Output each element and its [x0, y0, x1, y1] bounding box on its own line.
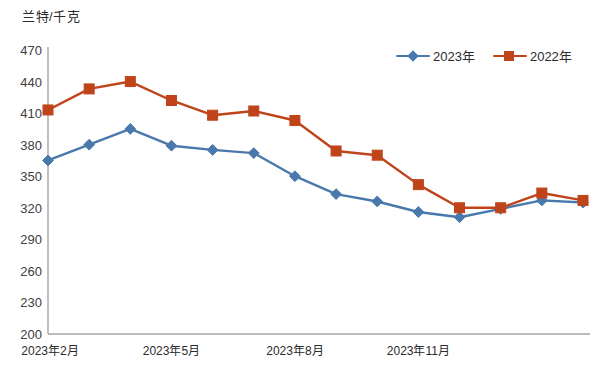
data-point-marker — [166, 95, 176, 105]
data-point-marker — [413, 207, 424, 218]
legend-label: 2022年 — [530, 46, 572, 65]
data-point-marker — [249, 106, 259, 116]
data-point-marker — [208, 110, 218, 120]
line-chart: 兰特/千克 470440410380350320290260230200 202… — [0, 0, 592, 372]
data-point-marker — [537, 188, 547, 198]
data-point-marker — [372, 150, 382, 160]
data-point-marker — [207, 145, 218, 156]
series-line — [48, 82, 583, 208]
data-point-marker — [455, 203, 465, 213]
legend-square-icon — [493, 50, 527, 62]
data-point-marker — [43, 105, 53, 115]
data-point-marker — [166, 140, 177, 151]
data-point-marker — [372, 196, 383, 207]
data-point-marker — [290, 115, 300, 125]
data-point-marker — [290, 171, 301, 182]
data-point-marker — [125, 123, 136, 134]
data-point-marker — [413, 180, 423, 190]
legend-diamond-icon — [396, 50, 430, 62]
data-point-marker — [331, 189, 342, 200]
chart-legend: 2023年2022年 — [396, 46, 572, 65]
series-2023 — [43, 123, 589, 222]
legend-label: 2023年 — [433, 46, 475, 65]
data-point-marker — [84, 139, 95, 150]
data-point-marker — [125, 77, 135, 87]
data-point-marker — [578, 195, 588, 205]
legend-item-2023年[interactable]: 2023年 — [396, 46, 475, 65]
data-point-marker — [84, 84, 94, 94]
data-point-marker — [454, 212, 465, 223]
data-point-marker — [248, 148, 259, 159]
series-2022 — [43, 77, 588, 213]
data-point-marker — [331, 146, 341, 156]
data-point-marker — [496, 203, 506, 213]
legend-item-2022年[interactable]: 2022年 — [493, 46, 572, 65]
data-point-marker — [43, 155, 54, 166]
